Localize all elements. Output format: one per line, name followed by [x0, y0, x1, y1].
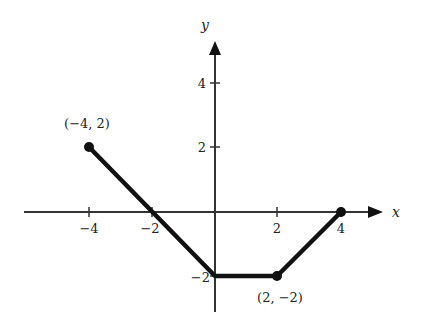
chart: −4 −2 2 4 4 2 −2 x y (−4, 2) (2, −2) — [0, 0, 422, 327]
y-tick-label: 2 — [198, 140, 206, 155]
y-axis-label: y — [200, 17, 210, 33]
x-tick-label: 4 — [337, 221, 345, 236]
point-annotation: (−4, 2) — [64, 116, 110, 131]
x-axis-label: x — [392, 204, 400, 220]
x-tick-label: 2 — [273, 221, 281, 236]
endpoint-dot — [336, 207, 346, 217]
y-tick-label: −2 — [191, 270, 210, 285]
x-axis-arrow-icon — [368, 206, 383, 218]
endpoint-dot — [84, 142, 94, 152]
x-tick-label: −4 — [79, 221, 98, 236]
endpoint-dot — [272, 271, 282, 281]
y-tick-label: 4 — [198, 76, 206, 91]
point-annotation: (2, −2) — [257, 290, 303, 305]
y-axis-arrow-icon — [209, 41, 221, 55]
x-tick-label: −2 — [140, 221, 159, 236]
